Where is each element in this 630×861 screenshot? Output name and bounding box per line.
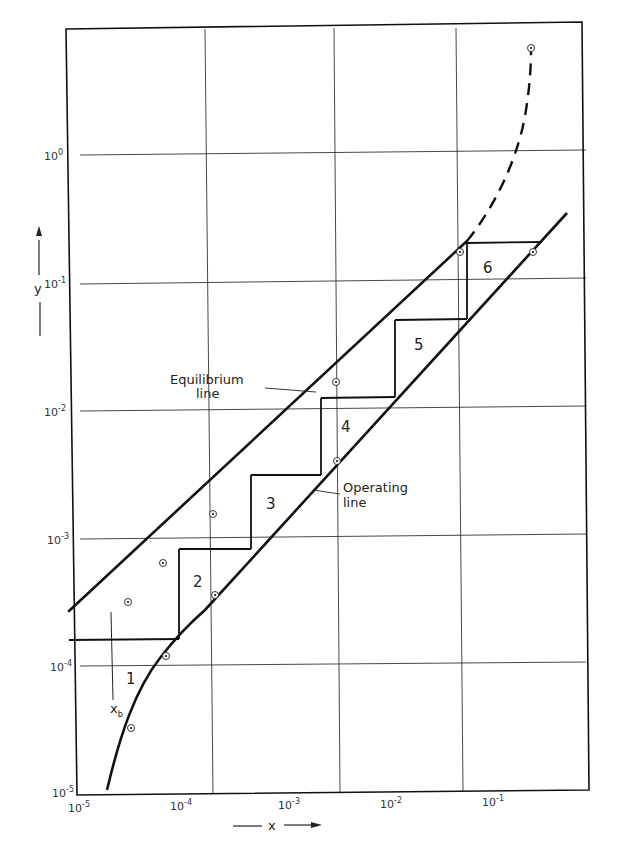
svg-text:10-3: 10-3 <box>47 532 69 547</box>
stage-steps <box>69 242 542 640</box>
xb-label: xb <box>110 701 123 719</box>
operating-label-line2: line <box>343 495 366 510</box>
equilibrium-label-line1: Equilibrium <box>170 372 244 387</box>
operating-label-line1: Operating <box>343 480 408 495</box>
svg-text:x: x <box>268 818 276 833</box>
mccabe-thiele-chart: 1 2 3 4 5 6 Equilibrium line Operating l… <box>0 0 630 861</box>
xb-marker-line <box>111 612 113 700</box>
x-tick-labels: 10-5 10-4 10-3 10-2 10-1 <box>68 794 504 815</box>
svg-text:10-3: 10-3 <box>278 797 300 812</box>
equilibrium-line <box>69 241 467 611</box>
arrow-right-icon <box>311 822 322 828</box>
svg-text:10-5: 10-5 <box>68 800 90 815</box>
svg-text:10-2: 10-2 <box>380 796 402 811</box>
stage-label-2: 2 <box>193 573 203 591</box>
stage-label-1: 1 <box>126 670 136 688</box>
svg-text:10-4: 10-4 <box>50 659 72 674</box>
svg-text:10-4: 10-4 <box>170 798 192 813</box>
svg-text:y: y <box>34 281 42 296</box>
stage-label-6: 6 <box>483 259 493 277</box>
svg-text:10-1: 10-1 <box>482 794 504 809</box>
svg-text:10-2: 10-2 <box>44 404 66 419</box>
grid <box>80 28 586 793</box>
y-axis-label: y <box>34 226 42 336</box>
operating-line <box>107 213 567 790</box>
stage-label-4: 4 <box>341 418 351 436</box>
arrow-up-icon <box>36 226 42 236</box>
equilibrium-line-dashed-extension <box>467 50 531 241</box>
operating-leader <box>313 490 340 494</box>
svg-text:10-1: 10-1 <box>44 276 66 291</box>
x-axis-label: x <box>233 818 322 833</box>
stage-label-5: 5 <box>414 336 424 354</box>
equilibrium-label-line2: line <box>196 386 219 401</box>
stage-label-3: 3 <box>266 495 276 513</box>
svg-text:100: 100 <box>44 148 63 163</box>
svg-text:10-5: 10-5 <box>52 785 74 800</box>
